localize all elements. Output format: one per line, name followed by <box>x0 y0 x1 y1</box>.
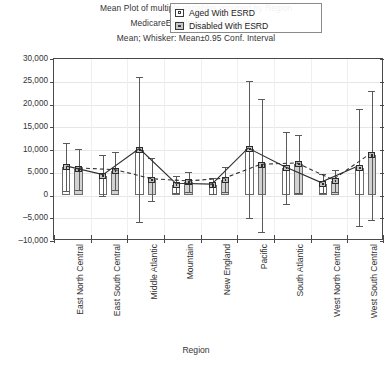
x-axis-category-label: Pacific <box>259 244 269 269</box>
chart-canvas: Mean Plot of multiple variables grouped … <box>0 0 392 370</box>
chart-title-line3: Mean; Whisker: Mean±0.95 Conf. Interval <box>0 33 392 43</box>
x-axis-tick <box>274 239 275 243</box>
plot-area: 30,00025,00020,00015,00010,0005,0000–5,0… <box>53 58 383 240</box>
x-axis-category-label: Mountain <box>185 244 195 279</box>
open-square-marker-icon <box>175 9 184 17</box>
y-axis-tick-label: 30,000 <box>0 54 48 63</box>
x-axis-title: Region <box>0 345 392 355</box>
y-axis-tick-label: 20,000 <box>0 99 48 108</box>
x-axis-tick <box>164 239 165 243</box>
y-axis-tick-label: 10,000 <box>0 145 48 154</box>
x-axis-tick <box>311 239 312 243</box>
legend-item-disabled[interactable]: Disabled With ESRD <box>175 19 317 32</box>
legend-label-aged: Aged With ESRD <box>189 8 255 18</box>
legend-label-disabled: Disabled With ESRD <box>189 21 268 31</box>
x-axis-category-label: West South Central <box>369 244 379 318</box>
x-axis-tick <box>127 239 128 243</box>
x-axis-category-label: New England <box>222 244 232 295</box>
y-axis-tick-label: 5,000 <box>0 167 48 176</box>
y-axis-tick-label: 0 <box>0 190 48 199</box>
y-axis-tick-label: –10,000 <box>0 236 48 245</box>
x-axis-category-label: Middle Atlantic <box>149 244 159 299</box>
y-axis-tick-label: 25,000 <box>0 76 48 85</box>
legend-item-aged[interactable]: Aged With ESRD <box>175 6 317 19</box>
x-axis-tick <box>201 239 202 243</box>
y-axis-tick-label: 15,000 <box>0 122 48 131</box>
x-axis-tick <box>237 239 238 243</box>
x-axis-category-label: West North Central <box>332 244 342 317</box>
x-axis-tick <box>54 239 55 243</box>
x-axis-category-label: East North Central <box>75 244 85 315</box>
x-axis-tick <box>91 239 92 243</box>
x-axis-category-label: East South Central <box>112 244 122 316</box>
x-axis-category-label: South Atlantic <box>295 244 305 297</box>
y-axis-tick-label: –5,000 <box>0 213 48 222</box>
trend-line-disabled <box>79 154 369 181</box>
legend: Aged With ESRD Disabled With ESRD <box>170 3 322 33</box>
x-axis-tick <box>383 235 384 239</box>
filled-square-marker-icon <box>175 22 184 30</box>
x-axis-tick <box>347 239 348 243</box>
x-axis-tick <box>383 239 384 243</box>
trend-lines <box>54 59 382 239</box>
